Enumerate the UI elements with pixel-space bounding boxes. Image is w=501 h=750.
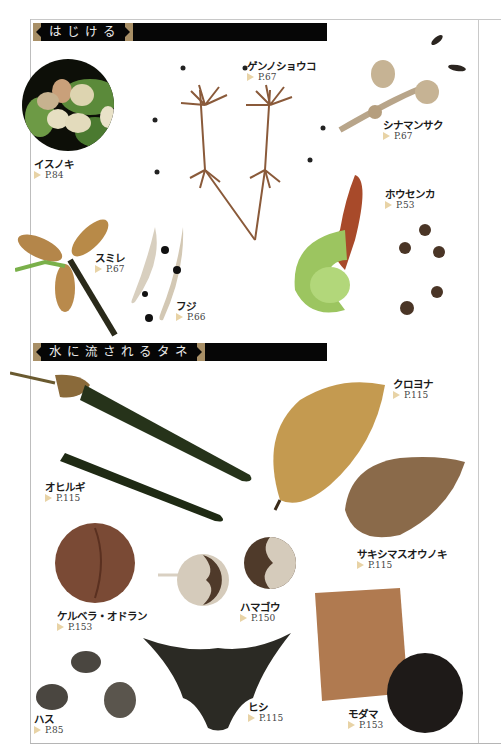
page-ref[interactable]: P.53 bbox=[385, 200, 435, 210]
specimen-label-isunoki: イスノキ P.84 bbox=[34, 158, 74, 180]
ornament-left-icon bbox=[33, 343, 41, 361]
play-arrow-icon bbox=[176, 313, 183, 321]
page-number: P.150 bbox=[251, 613, 275, 623]
sumire-photo bbox=[15, 210, 125, 340]
play-arrow-icon bbox=[95, 265, 102, 273]
page-ref[interactable]: P.84 bbox=[34, 170, 74, 180]
specimen-label-cerbera: ケルベラ・オドラン P.153 bbox=[57, 610, 147, 632]
page-number: P.115 bbox=[368, 560, 392, 570]
section-header-mizu-ni-nagasareru-tane: 水に流されるタネ bbox=[33, 343, 327, 361]
play-arrow-icon bbox=[34, 726, 41, 734]
ornament-right-icon bbox=[197, 343, 205, 361]
section-tag: はじける bbox=[33, 23, 133, 41]
page-ref[interactable]: P.85 bbox=[34, 725, 64, 735]
specimen-name: シナマンサク bbox=[383, 119, 443, 131]
specimen-name: オヒルギ bbox=[45, 481, 85, 493]
cerbera-photo bbox=[52, 520, 138, 606]
housenka-seeds bbox=[395, 222, 455, 317]
page-frame-top bbox=[30, 19, 501, 20]
play-arrow-icon bbox=[45, 494, 52, 502]
page-number: P.67 bbox=[258, 72, 277, 82]
specimen-label-hishi: ヒシ P.115 bbox=[248, 701, 283, 723]
page-number: P.115 bbox=[404, 390, 428, 400]
play-arrow-icon bbox=[248, 714, 255, 722]
specimen-label-kuroyona: クロヨナ P.115 bbox=[393, 378, 433, 400]
page-ref[interactable]: P.115 bbox=[357, 560, 447, 570]
page-ref[interactable]: P.153 bbox=[348, 720, 383, 730]
section-header-hajikeru: はじける bbox=[33, 23, 327, 41]
page-number: P.85 bbox=[45, 725, 64, 735]
page-ref[interactable]: P.153 bbox=[57, 622, 147, 632]
isunoki-photo bbox=[20, 57, 116, 153]
play-arrow-icon bbox=[385, 201, 392, 209]
specimen-label-modama: モダマ P.153 bbox=[348, 708, 383, 730]
specimen-label-hasu: ハス P.85 bbox=[34, 713, 64, 735]
page-frame-right bbox=[478, 19, 479, 743]
page-number: P.84 bbox=[45, 170, 64, 180]
modama-photo bbox=[300, 583, 475, 738]
play-arrow-icon bbox=[240, 614, 247, 622]
specimen-label-hamagou: ハマゴウ P.150 bbox=[240, 601, 280, 623]
play-arrow-icon bbox=[247, 73, 254, 81]
specimen-name: クロヨナ bbox=[393, 378, 433, 390]
specimen-label-shinamansaku: シナマンサク P.67 bbox=[383, 119, 443, 141]
ornament-right-icon bbox=[125, 23, 133, 41]
page-ref[interactable]: P.115 bbox=[393, 390, 433, 400]
play-arrow-icon bbox=[57, 623, 64, 631]
page-number: P.115 bbox=[56, 493, 80, 503]
section-tag: 水に流されるタネ bbox=[33, 343, 205, 361]
specimen-label-gennoshoko: ゲンノショウコ P.67 bbox=[247, 60, 316, 82]
page-number: P.115 bbox=[259, 713, 283, 723]
play-arrow-icon bbox=[348, 721, 355, 729]
sakishimasuounoki-photo bbox=[340, 450, 470, 545]
specimen-name: ハス bbox=[34, 713, 64, 725]
specimen-name: モダマ bbox=[348, 708, 383, 720]
specimen-label-sumire: スミレ P.67 bbox=[95, 252, 125, 274]
play-arrow-icon bbox=[357, 561, 364, 569]
section-title: 水に流されるタネ bbox=[41, 343, 197, 361]
page-number: P.67 bbox=[106, 264, 125, 274]
page-ref[interactable]: P.115 bbox=[45, 493, 85, 503]
page-number: P.153 bbox=[68, 622, 92, 632]
page-number: P.153 bbox=[359, 720, 383, 730]
ohirugi-photo bbox=[10, 365, 260, 530]
page-ref[interactable]: P.115 bbox=[248, 713, 283, 723]
specimen-label-ohirugi: オヒルギ P.115 bbox=[45, 481, 85, 503]
specimen-name: ハマゴウ bbox=[240, 601, 280, 613]
play-arrow-icon bbox=[34, 171, 41, 179]
housenka-photo bbox=[285, 170, 385, 325]
specimen-name: イスノキ bbox=[34, 158, 74, 170]
page-ref[interactable]: P.66 bbox=[176, 312, 206, 322]
specimen-name: スミレ bbox=[95, 252, 125, 264]
page-number: P.53 bbox=[396, 200, 415, 210]
page-ref[interactable]: P.67 bbox=[247, 72, 316, 82]
specimen-name: ヒシ bbox=[248, 701, 283, 713]
specimen-name: ケルベラ・オドラン bbox=[57, 610, 147, 622]
play-arrow-icon bbox=[383, 132, 390, 140]
specimen-name: ホウセンカ bbox=[385, 188, 435, 200]
section-title: はじける bbox=[41, 23, 125, 41]
specimen-label-fuji: フジ P.66 bbox=[176, 300, 206, 322]
play-arrow-icon bbox=[393, 391, 400, 399]
specimen-name: ゲンノショウコ bbox=[247, 60, 316, 72]
page-ref[interactable]: P.67 bbox=[383, 131, 443, 141]
specimen-name: サキシマスオウノキ bbox=[357, 548, 447, 560]
specimen-name: フジ bbox=[176, 300, 206, 312]
page-frame-bottom bbox=[30, 743, 501, 744]
ornament-left-icon bbox=[33, 23, 41, 41]
page-number: P.66 bbox=[187, 312, 206, 322]
page-ref[interactable]: P.67 bbox=[95, 264, 125, 274]
page-number: P.67 bbox=[394, 131, 413, 141]
page-ref[interactable]: P.150 bbox=[240, 613, 280, 623]
specimen-label-housenka: ホウセンカ P.53 bbox=[385, 188, 435, 210]
specimen-label-sakishimasuounoki: サキシマスオウノキ P.115 bbox=[357, 548, 447, 570]
